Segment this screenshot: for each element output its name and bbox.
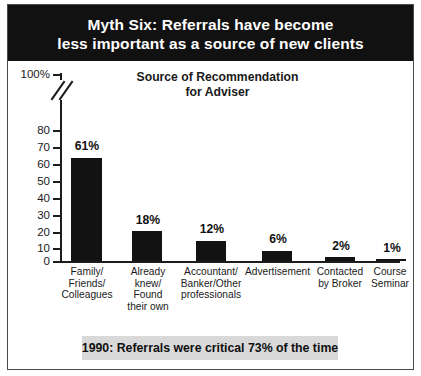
- bar-course-seminar: [376, 259, 406, 261]
- y-tick-80: [53, 130, 61, 132]
- banner-title-line-1: Myth Six: Referrals have become: [87, 15, 333, 34]
- x-category-label-4: Contacted by Broker: [310, 266, 370, 289]
- y-tick-label-10-wrap: 10: [2, 243, 50, 254]
- x-category-label-1: Already knew/ Found their own: [117, 266, 179, 312]
- x-category-label-1-line-1: Already: [117, 266, 179, 278]
- x-category-label-5: Course Seminar: [362, 266, 418, 289]
- y-tick-label-20: 20: [6, 227, 50, 238]
- y-tick-0: [53, 261, 61, 263]
- x-category-label-3-line-1: Advertisement: [243, 266, 312, 278]
- y-tick-label-70: 70: [6, 142, 50, 153]
- y-tick-60: [53, 164, 61, 166]
- x-category-label-0: Family/ Friends/ Colleagues: [54, 266, 120, 301]
- bar-value-2: 12%: [186, 223, 238, 236]
- bar-already-knew-found-their-own: [132, 231, 162, 261]
- plot-title-line-1: Source of Recommendation: [95, 70, 340, 85]
- y-tick-label-100: 100%: [6, 69, 50, 80]
- bar-value-1: 18%: [122, 214, 174, 227]
- y-tick-label-30-wrap: 30: [2, 210, 50, 221]
- y-tick-label-40: 40: [6, 193, 50, 204]
- x-category-label-4-line-1: Contacted: [310, 266, 370, 278]
- banner-title-line-2: less important as a source of new client…: [57, 34, 363, 53]
- y-tick-label-10: 10: [6, 243, 50, 254]
- x-category-label-0-line-1: Family/: [54, 266, 120, 278]
- y-tick-label-30: 30: [6, 210, 50, 221]
- x-category-label-1-line-4: their own: [117, 301, 179, 313]
- y-tick-50: [53, 181, 61, 183]
- x-category-label-2-line-2: Banker/Other: [172, 278, 250, 290]
- y-tick-label-20-wrap: 20: [2, 227, 50, 238]
- bar-advertisement: [262, 251, 292, 261]
- bar-contacted-by-broker: [325, 257, 355, 261]
- y-tick-label-60: 60: [6, 159, 50, 170]
- x-category-label-5-line-2: Seminar: [362, 278, 418, 290]
- y-tick-label-60-wrap: 60: [2, 159, 50, 170]
- title-banner: Myth Six: Referrals have become less imp…: [8, 5, 413, 61]
- x-category-label-2-line-3: professionals: [172, 289, 250, 301]
- y-tick-label-80: 80: [6, 125, 50, 136]
- y-tick-label-100-wrap: 100%: [2, 69, 50, 80]
- y-tick-label-80-wrap: 80: [2, 125, 50, 136]
- bar-family-friends-colleagues: [71, 158, 102, 261]
- x-category-label-5-line-1: Course: [362, 266, 418, 278]
- y-tick-label-40-wrap: 40: [2, 193, 50, 204]
- y-tick-label-50: 50: [6, 176, 50, 187]
- x-category-label-1-line-2: knew/: [117, 278, 179, 290]
- y-tick-label-70-wrap: 70: [2, 142, 50, 153]
- bar-accountant-banker-other-professionals: [196, 241, 226, 261]
- y-tick-label-0: 0: [6, 256, 50, 267]
- bar-value-3: 6%: [252, 233, 304, 246]
- bar-value-4: 2%: [315, 240, 367, 253]
- y-tick-label-0-wrap: 0: [2, 256, 50, 267]
- plot-title: Source of Recommendation for Adviser: [95, 70, 340, 99]
- y-tick-label-50-wrap: 50: [2, 176, 50, 187]
- bar-value-0: 61%: [61, 140, 113, 153]
- x-category-label-1-line-3: Found: [117, 289, 179, 301]
- figure-root: Myth Six: Referrals have become less imp…: [0, 0, 421, 376]
- plot-title-line-2: for Adviser: [95, 85, 340, 100]
- y-tick-20: [53, 232, 61, 234]
- footer-callout-box: 1990: Referrals were critical 73% of the…: [82, 336, 338, 360]
- x-axis-line: [60, 261, 400, 263]
- footer-callout-text: 1990: Referrals were critical 73% of the…: [82, 341, 338, 355]
- axis-break-icon: [50, 78, 76, 104]
- x-category-label-0-line-3: Colleagues: [54, 289, 120, 301]
- x-category-label-3: Advertisement: [243, 266, 312, 278]
- x-category-label-4-line-2: by Broker: [310, 278, 370, 290]
- y-tick-30: [53, 215, 61, 217]
- y-tick-100: [53, 74, 61, 76]
- bar-value-5: 1%: [366, 242, 418, 255]
- y-tick-70: [53, 147, 61, 149]
- x-category-label-2-line-1: Accountant/: [172, 266, 250, 278]
- y-tick-40: [53, 198, 61, 200]
- y-tick-10: [53, 248, 61, 250]
- x-category-label-0-line-2: Friends/: [54, 278, 120, 290]
- x-category-label-2: Accountant/ Banker/Other professionals: [172, 266, 250, 301]
